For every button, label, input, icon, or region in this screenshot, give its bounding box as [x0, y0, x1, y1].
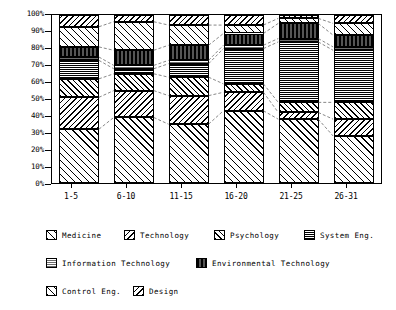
legend-swatch-technology-icon — [124, 230, 135, 240]
stacked-bar-chart: 100% 90% 80% 70% 60% 50% 40% 30% 20% 10%… — [0, 0, 396, 310]
legend-label: Medicine — [62, 231, 101, 240]
legend-swatch-system-eng-icon — [304, 230, 315, 240]
legend-label: Environmental Technology — [212, 259, 330, 268]
legend-label: Information Technology — [62, 259, 170, 268]
legend-item-system-eng: System Eng. — [304, 230, 374, 240]
legend-label: Control Eng. — [62, 287, 121, 296]
legend-swatch-control-eng-icon — [46, 286, 57, 296]
legend-label: Design — [149, 287, 179, 296]
legend-item-information-technology: Information Technology — [46, 258, 170, 268]
legend-item-design: Design — [133, 286, 179, 296]
legend-item-psychology: Psychology — [214, 230, 279, 240]
legend-item-technology: Technology — [124, 230, 189, 240]
legend-label: System Eng. — [320, 231, 374, 240]
legend-swatch-psychology-icon — [214, 230, 225, 240]
legend: Medicine Technology Psychology System En… — [0, 0, 396, 310]
legend-label: Psychology — [230, 231, 279, 240]
legend-item-control-eng: Control Eng. — [46, 286, 121, 296]
legend-swatch-information-technology-icon — [46, 258, 57, 268]
legend-item-environmental-technology: Environmental Technology — [196, 258, 330, 268]
legend-swatch-design-icon — [133, 286, 144, 296]
legend-label: Technology — [140, 231, 189, 240]
legend-swatch-environmental-technology-icon — [196, 258, 207, 268]
legend-item-medicine: Medicine — [46, 230, 101, 240]
legend-swatch-medicine-icon — [46, 230, 57, 240]
